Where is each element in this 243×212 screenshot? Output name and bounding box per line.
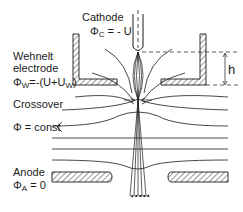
cathode-potential: ΦC = - U	[90, 25, 132, 41]
wehnelt-electrode-right	[161, 34, 206, 85]
wehnelt-label-line2: electrode	[13, 62, 58, 74]
electron-beam	[130, 52, 146, 196]
wehnelt-label-line1: Wehnelt	[13, 50, 53, 62]
cathode-label: Cathode	[82, 11, 124, 23]
height-label: h	[228, 64, 235, 76]
wehnelt-potential: ΦW=-(U+UW)	[13, 76, 77, 92]
anode-right	[168, 172, 228, 182]
crossover-label: Crossover	[13, 98, 63, 110]
cathode	[133, 10, 143, 51]
equipotential-label: Φ = const	[13, 121, 61, 133]
wehnelt-electrode-left	[73, 34, 117, 85]
anode-left	[52, 172, 112, 182]
anode-label: Anode	[13, 166, 45, 178]
anode-potential: ΦA = 0	[13, 179, 46, 195]
